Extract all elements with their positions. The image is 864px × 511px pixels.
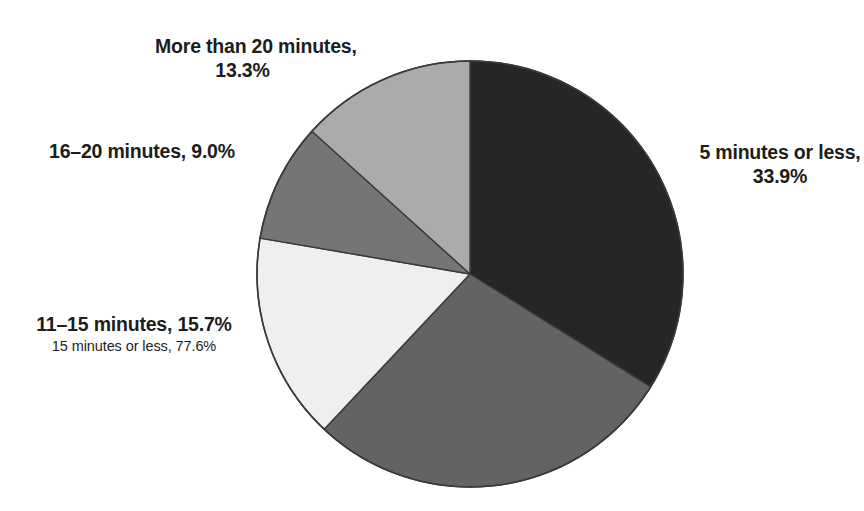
pie-slice-group (257, 61, 683, 487)
slice-label-more-than-20-minutes-line1: More than 20 minutes, (155, 34, 330, 58)
slice-label-11-15-minutes: 11–15 minutes, 15.7% 15 minutes or less,… (27, 313, 241, 356)
pie-chart-figure: More than 20 minutes, 13.3% 16–20 minute… (0, 0, 864, 511)
slice-label-more-than-20-minutes: More than 20 minutes, 13.3% (155, 34, 330, 82)
pie-chart-svg (0, 0, 864, 511)
cumulative-annotation-15-minutes-or-less: 15 minutes or less, 77.6% (27, 337, 241, 356)
slice-label-16-20-minutes: 16–20 minutes, 9.0% (49, 139, 235, 163)
slice-label-5-minutes-or-less-value: 33.9% (697, 164, 863, 188)
slice-label-more-than-20-minutes-value: 13.3% (155, 58, 330, 82)
slice-label-5-minutes-or-less: 5 minutes or less, 33.9% (697, 140, 863, 188)
slice-label-16-20-minutes-line1: 16–20 minutes, 9.0% (49, 139, 235, 163)
slice-label-5-minutes-or-less-line1: 5 minutes or less, (697, 140, 863, 164)
slice-label-11-15-minutes-main: 11–15 minutes, 15.7% (27, 313, 241, 336)
